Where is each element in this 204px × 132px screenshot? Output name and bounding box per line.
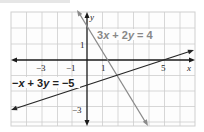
equation-label-line2: −x + 3y = −5 bbox=[12, 77, 74, 89]
x-axis-label: x bbox=[186, 63, 191, 73]
x-tick-neg1: −1 bbox=[66, 63, 76, 73]
y-tick-neg3: −3 bbox=[72, 105, 82, 115]
x-tick-5: 5 bbox=[161, 63, 166, 73]
coordinate-plane: −3 −1 1 5 x 1 −3 y 3x + 2y = 4 −x + 3y =… bbox=[0, 0, 204, 132]
equation-label-line1: 3x + 2y = 4 bbox=[97, 29, 154, 41]
y-tick-1: 1 bbox=[80, 40, 85, 50]
x-tick-neg3: −3 bbox=[36, 63, 46, 73]
y-axis-label: y bbox=[89, 12, 94, 22]
x-tick-1: 1 bbox=[101, 63, 106, 73]
